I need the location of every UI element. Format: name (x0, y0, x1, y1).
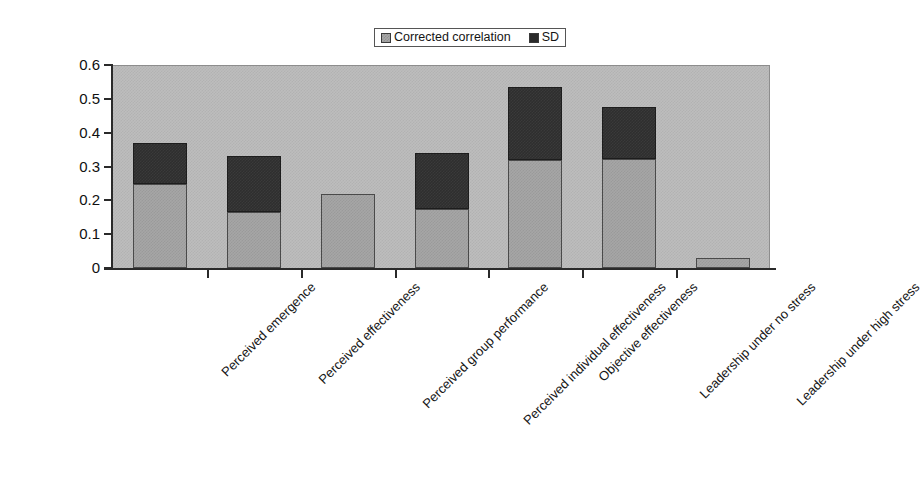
x-axis-tick (676, 270, 678, 278)
bar-segment-sd (133, 143, 187, 184)
legend-entry-corrected-correlation: Corrected correlation (381, 31, 511, 44)
bar-segment-corrected-correlation (321, 194, 375, 268)
bar-group (133, 143, 187, 268)
y-axis-tick-label: 0.6 (56, 57, 100, 72)
bar-segment-corrected-correlation (133, 184, 187, 268)
x-axis-tick (395, 270, 397, 278)
y-axis-tick (104, 132, 112, 134)
x-axis-tick (301, 270, 303, 278)
y-axis-tick (104, 233, 112, 235)
y-axis-tick-label: 0.2 (56, 192, 100, 207)
legend-entry-sd: SD (529, 31, 559, 44)
bar-group (227, 156, 281, 268)
y-axis-tick (104, 64, 112, 66)
chart-legend: Corrected correlation SD (374, 28, 566, 47)
bar-segment-corrected-correlation (415, 209, 469, 268)
x-axis-tick (207, 270, 209, 278)
bar-group (508, 87, 562, 268)
bar-segment-sd (508, 87, 562, 160)
y-axis-tick (104, 166, 112, 168)
bar-segment-corrected-correlation (508, 160, 562, 268)
x-axis-category-label: Perceived group performance (420, 280, 551, 411)
y-axis-tick (104, 98, 112, 100)
bar-segment-corrected-correlation (696, 258, 750, 268)
bar-segment-corrected-correlation (227, 212, 281, 268)
y-axis-tick-label: 0 (56, 260, 100, 275)
bar-segment-sd (602, 107, 656, 159)
bar-segment-corrected-correlation (602, 159, 656, 268)
x-axis-category-label: Perceived individual effectiveness (521, 280, 669, 428)
x-axis-category-label: Leadership under no stress (697, 280, 818, 401)
y-axis-tick-label: 0.5 (56, 91, 100, 106)
y-axis-tick-label: 0.1 (56, 226, 100, 241)
x-axis-tick (488, 270, 490, 278)
bar-group (696, 258, 750, 268)
x-axis-category-label: Perceived effectiveness (316, 280, 423, 387)
y-axis-tick (104, 267, 112, 269)
bar-group (415, 153, 469, 268)
bar-segment-sd (227, 156, 281, 212)
x-axis-category-label: Leadership under high stress (794, 280, 922, 408)
bar-segment-sd (415, 153, 469, 209)
y-axis-tick-label: 0.4 (56, 125, 100, 140)
x-axis-category-label: Perceived emergence (219, 280, 318, 379)
legend-swatch-corrected-correlation (381, 33, 391, 43)
bar-group (321, 194, 375, 268)
legend-label-corrected-correlation: Corrected correlation (394, 31, 511, 44)
x-axis-tick (582, 270, 584, 278)
legend-swatch-sd (529, 33, 539, 43)
y-axis-tick-label: 0.3 (56, 159, 100, 174)
y-axis-tick (104, 199, 112, 201)
legend-label-sd: SD (542, 31, 559, 44)
bar-group (602, 107, 656, 268)
